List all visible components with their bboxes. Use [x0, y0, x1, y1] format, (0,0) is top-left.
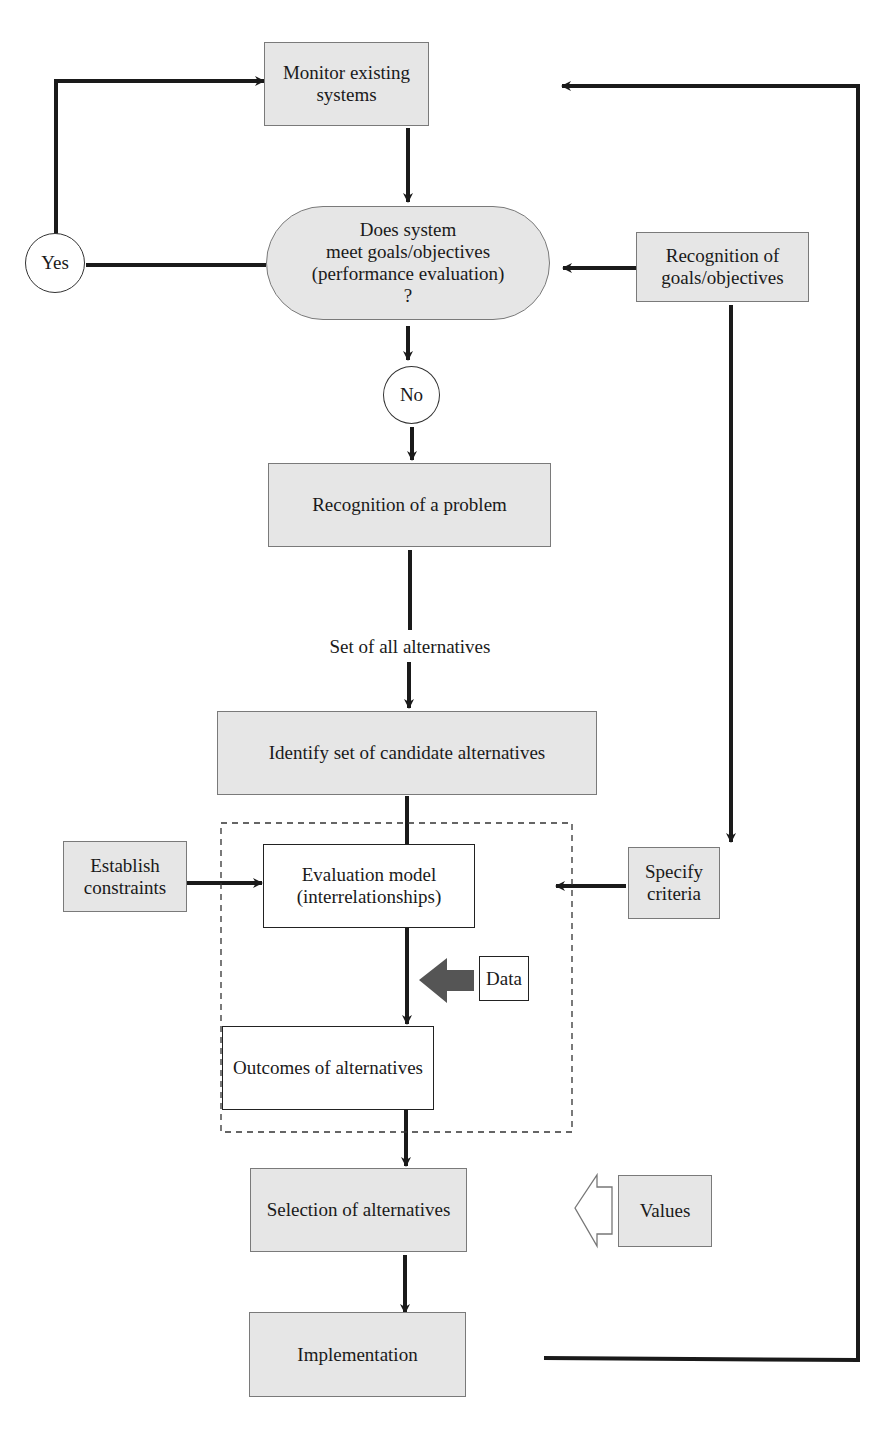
- node-label: Recognition of goals/objectives: [661, 245, 783, 289]
- node-label: Monitor existing systems: [265, 62, 428, 106]
- node-label: Data: [486, 968, 522, 990]
- node-outcomes-of-alternatives: Outcomes of alternatives: [222, 1026, 434, 1110]
- label-set-of-all-alternatives: Set of all alternatives: [300, 636, 520, 658]
- node-no: No: [383, 366, 440, 424]
- node-values: Values: [618, 1175, 712, 1247]
- node-evaluation-model: Evaluation model (interrelationships): [263, 844, 475, 928]
- node-establish-constraints: Establish constraints: [63, 841, 187, 912]
- node-recognition-of-problem: Recognition of a problem: [268, 463, 551, 547]
- data-arrow-icon: [419, 958, 474, 1003]
- node-label: Selection of alternatives: [267, 1199, 451, 1221]
- node-label: Implementation: [297, 1344, 417, 1366]
- node-label: Values: [640, 1200, 691, 1222]
- node-monitor-existing-systems: Monitor existing systems: [264, 42, 429, 126]
- node-selection-of-alternatives: Selection of alternatives: [250, 1168, 467, 1252]
- node-label: Specify criteria: [645, 861, 703, 905]
- node-specify-criteria: Specify criteria: [628, 847, 720, 919]
- node-label: Yes: [41, 252, 69, 274]
- node-label: Establish constraints: [84, 855, 166, 899]
- node-label: Does system meet goals/objectives (perfo…: [312, 219, 505, 306]
- node-implementation: Implementation: [249, 1312, 466, 1397]
- values-arrow-icon: [575, 1175, 612, 1246]
- node-label: Outcomes of alternatives: [233, 1057, 423, 1079]
- node-identify-candidate-alternatives: Identify set of candidate alternatives: [217, 711, 597, 795]
- node-yes: Yes: [25, 233, 85, 293]
- node-recognition-of-goals: Recognition of goals/objectives: [636, 232, 809, 302]
- node-data: Data: [479, 956, 529, 1001]
- node-decision-meet-goals: Does system meet goals/objectives (perfo…: [266, 206, 550, 320]
- node-label: Recognition of a problem: [312, 494, 507, 516]
- node-label: Evaluation model (interrelationships): [297, 864, 442, 908]
- node-label: Identify set of candidate alternatives: [269, 742, 545, 764]
- node-label: No: [400, 384, 423, 406]
